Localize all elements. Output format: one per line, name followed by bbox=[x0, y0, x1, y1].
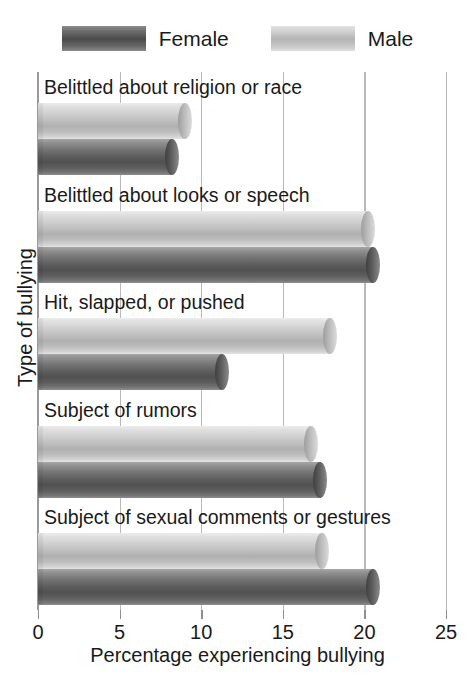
bar-body bbox=[38, 103, 185, 139]
bar-left-shade bbox=[38, 139, 43, 175]
bar-group: Belittled about religion or race bbox=[38, 72, 446, 180]
bar-left-shade bbox=[38, 211, 43, 247]
legend-item-female: Female bbox=[62, 26, 229, 51]
bar-end-cap bbox=[304, 426, 318, 462]
x-tick-5 bbox=[120, 610, 121, 619]
y-axis-title: Type of bullying bbox=[14, 203, 37, 433]
bar-group-label: Hit, slapped, or pushed bbox=[44, 287, 245, 318]
bar-female bbox=[38, 247, 373, 283]
bar-end-cap bbox=[323, 318, 337, 354]
bar-male bbox=[38, 533, 322, 569]
bar-group: Subject of sexual comments or gestures bbox=[38, 502, 446, 610]
chart-legend: Female Male bbox=[0, 18, 475, 58]
bar-male bbox=[38, 426, 311, 462]
bar-group-label: Subject of sexual comments or gestures bbox=[44, 502, 391, 533]
x-axis-title: Percentage experiencing bullying bbox=[0, 644, 475, 667]
x-tick-label-15: 15 bbox=[272, 621, 294, 644]
bar-female bbox=[38, 139, 172, 175]
bar-body bbox=[38, 247, 373, 283]
plot-area: 0510152025Belittled about religion or ra… bbox=[38, 72, 446, 610]
x-tick-20 bbox=[364, 610, 365, 619]
legend-label-female: Female bbox=[159, 28, 229, 49]
bar-female bbox=[38, 354, 222, 390]
bar-end-cap bbox=[215, 354, 229, 390]
bar-chart: Female Male 0510152025Belittled about re… bbox=[0, 0, 475, 688]
bar-body bbox=[38, 533, 322, 569]
bar-end-cap bbox=[165, 139, 179, 175]
bar-left-shade bbox=[38, 426, 43, 462]
bar-body bbox=[38, 462, 320, 498]
male-swatch-icon bbox=[271, 26, 355, 51]
bar-end-cap bbox=[315, 533, 329, 569]
bar-group-label: Subject of rumors bbox=[44, 395, 197, 426]
x-tick-25 bbox=[446, 610, 447, 619]
bar-left-shade bbox=[38, 103, 43, 139]
bar-group: Belittled about looks or speech bbox=[38, 180, 446, 288]
bar-left-shade bbox=[38, 533, 43, 569]
bar-left-shade bbox=[38, 318, 43, 354]
bar-end-cap bbox=[366, 569, 380, 605]
bar-body bbox=[38, 354, 222, 390]
bar-male bbox=[38, 211, 368, 247]
legend-label-male: Male bbox=[368, 28, 414, 49]
bar-body bbox=[38, 426, 311, 462]
bar-group-label: Belittled about looks or speech bbox=[44, 180, 310, 211]
bar-left-shade bbox=[38, 354, 43, 390]
legend-item-male: Male bbox=[271, 26, 414, 51]
bar-end-cap bbox=[178, 103, 192, 139]
bar-group: Subject of rumors bbox=[38, 395, 446, 503]
bar-left-shade bbox=[38, 569, 43, 605]
bar-male bbox=[38, 103, 185, 139]
bar-left-shade bbox=[38, 247, 43, 283]
x-tick-15 bbox=[283, 610, 284, 619]
female-swatch-icon bbox=[62, 26, 146, 51]
x-tick-label-5: 5 bbox=[114, 621, 125, 644]
bar-end-cap bbox=[313, 462, 327, 498]
bar-body bbox=[38, 318, 330, 354]
bar-male bbox=[38, 318, 330, 354]
y-axis-title-wrap: Type of bullying bbox=[2, 180, 32, 460]
bar-female bbox=[38, 569, 373, 605]
x-tick-label-20: 20 bbox=[353, 621, 375, 644]
x-tick-label-25: 25 bbox=[435, 621, 457, 644]
bar-end-cap bbox=[361, 211, 375, 247]
x-tick-label-0: 0 bbox=[32, 621, 43, 644]
bar-end-cap bbox=[366, 247, 380, 283]
bar-female bbox=[38, 462, 320, 498]
gridline-25 bbox=[446, 72, 447, 610]
bar-left-shade bbox=[38, 462, 43, 498]
bar-body bbox=[38, 211, 368, 247]
bar-body bbox=[38, 569, 373, 605]
x-tick-label-10: 10 bbox=[190, 621, 212, 644]
bar-body bbox=[38, 139, 172, 175]
bar-group: Hit, slapped, or pushed bbox=[38, 287, 446, 395]
x-tick-10 bbox=[201, 610, 202, 619]
bar-group-label: Belittled about religion or race bbox=[44, 72, 302, 103]
x-tick-0 bbox=[38, 610, 39, 619]
